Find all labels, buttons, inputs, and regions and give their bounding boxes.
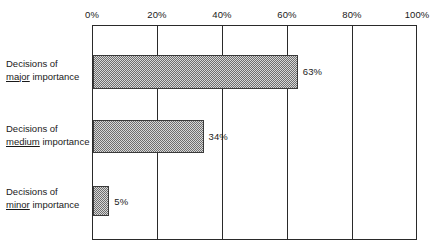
category-label-major-line2: major importance [6,71,88,84]
x-tick-label-20: 20% [147,9,166,20]
category-label-medium-emphasis: medium [6,136,40,147]
gridline-80 [352,26,353,239]
category-label-major: Decisions of major importance [0,58,88,83]
x-tick-label-40: 40% [212,9,231,20]
x-tick-label-60: 60% [277,9,296,20]
bar-major [93,55,298,89]
bar-minor [93,186,109,216]
bar-chart: 0% 20% 40% 60% 80% 100% Decisions of maj… [0,0,442,251]
category-label-major-emphasis: major [6,71,30,82]
category-label-medium-rest: importance [40,136,90,147]
category-label-minor-rest: importance [30,199,80,210]
category-label-minor: Decisions of minor importance [0,186,88,211]
category-label-medium-line2: medium importance [6,136,88,149]
category-label-minor-line2: minor importance [6,199,88,212]
value-label-minor: 5% [114,196,128,207]
x-tick-label-80: 80% [342,9,361,20]
bar-medium [93,120,204,153]
value-label-major: 63% [303,66,322,77]
category-label-medium: Decisions of medium importance [0,123,88,148]
category-label-major-rest: importance [30,71,80,82]
value-label-medium: 34% [209,131,228,142]
x-tick-label-0: 0% [85,9,99,20]
x-tick-label-100: 100% [405,9,430,20]
category-label-minor-emphasis: minor [6,199,30,210]
plot-area [92,25,417,240]
category-label-minor-line1: Decisions of [6,186,88,199]
category-label-medium-line1: Decisions of [6,123,88,136]
category-label-major-line1: Decisions of [6,58,88,71]
